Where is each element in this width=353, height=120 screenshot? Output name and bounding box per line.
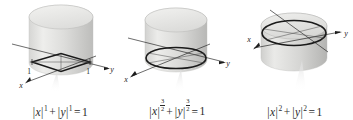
panel-1-graphic: 1 1 y x [0,0,120,92]
cylinder-top-ellipse-1 [29,5,93,29]
caption-2-x-exponent-denominator: 2 [160,106,164,113]
figure-root: 1 1 y x |x|1+|y|1=1 [0,0,353,120]
cylinder-top-ellipse-2 [145,8,207,32]
axis-label-x-2: x [123,75,128,84]
caption-1-rhs: 1 [82,106,88,118]
caption-1-equals: = [73,106,83,118]
axis-label-y-2: y [225,59,230,68]
axis-label-y-1: y [109,65,114,74]
figure-panel-1: 1 1 y x |x|1+|y|1=1 [0,0,120,120]
caption-leader-2 [174,69,184,92]
caption-2-rhs: 1 [200,106,206,118]
figure-panel-3: y x |x|2+|y|2=1 [236,0,353,120]
caption-3-equals: = [307,106,317,118]
caption-1-y-var: y [60,106,65,118]
panel-2-graphic: y x [118,0,236,92]
cylinder-top-ellipse-3 [261,13,327,39]
panel-2-caption: |x|32+|y|32=1 [118,98,236,118]
caption-3-plus: + [282,106,292,118]
axis-label-x-1: x [18,81,23,90]
caption-2-plus: + [165,106,175,118]
panel-3-caption: |x|2+|y|2=1 [236,107,353,119]
caption-2-y-exponent-denominator: 2 [186,106,190,113]
x-axis-arrow-1 [25,77,31,84]
caption-3-rhs: 1 [317,106,323,118]
caption-1-plus: + [48,106,58,118]
x-axis-arrow-3 [253,43,260,50]
figure-panel-2: y x |x|32+|y|32=1 [118,0,236,120]
axis-label-x-3: x [246,35,251,44]
panel-3-graphic: y x [236,0,353,92]
tick-label-x-1: 1 [27,67,31,76]
cylinder-surface-2 [145,8,207,72]
caption-1-x-var: x [35,106,40,118]
y-axis-arrow-3 [335,31,342,34]
panel-1-caption: |x|1+|y|1=1 [0,107,120,119]
caption-2-x-exponent: 32 [160,98,164,112]
tick-label-y-1: 1 [86,67,90,76]
axis-label-y-3: y [343,29,348,38]
x-axis-arrow-2 [130,71,137,78]
caption-2-y-var: y [177,106,182,118]
caption-2-equals: = [190,106,200,118]
caption-2-y-exponent: 32 [186,98,190,112]
